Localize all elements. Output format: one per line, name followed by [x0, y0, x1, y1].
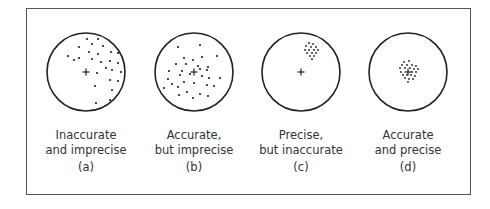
shot-dot: [312, 43, 314, 45]
shot-dot: [168, 70, 170, 72]
shot-dot: [306, 52, 308, 54]
shot-dot: [181, 70, 183, 72]
shot-dot: [111, 69, 113, 71]
shot-dot: [91, 58, 93, 60]
shot-dot: [94, 85, 96, 87]
shot-dot: [185, 63, 187, 65]
shot-dot: [201, 75, 203, 77]
caption-line2: but imprecise: [155, 143, 234, 157]
shot-dot: [310, 46, 312, 48]
shot-dot: [401, 64, 403, 66]
shot-dot: [97, 38, 99, 40]
shot-dot: [197, 65, 199, 67]
shot-dot: [216, 55, 218, 57]
crosshair-icon: [298, 69, 305, 76]
shot-dot: [406, 74, 408, 76]
shot-dot: [178, 94, 180, 96]
shot-dot: [311, 52, 313, 54]
shot-dot: [179, 74, 181, 76]
shot-dot: [315, 46, 317, 48]
shot-dot: [177, 86, 179, 88]
shot-dot: [96, 72, 98, 74]
caption-b: Accurate, but imprecise (b): [139, 128, 249, 175]
shot-dot: [311, 58, 313, 60]
caption-line2: and precise: [375, 143, 442, 157]
shot-dot: [183, 81, 185, 83]
shot-dot: [97, 53, 99, 55]
targets-canvas: [0, 0, 490, 209]
shot-dot: [315, 52, 317, 54]
shot-dot: [413, 68, 415, 70]
caption-line2: but inaccurate: [259, 143, 343, 157]
shot-dot: [199, 68, 201, 70]
crosshair-icon: [83, 69, 90, 76]
shot-dots: [304, 42, 319, 60]
shot-dots: [67, 38, 122, 104]
shot-dot: [171, 83, 173, 85]
caption-a: Inaccurate and imprecise (a): [31, 128, 141, 175]
shot-dot: [183, 57, 185, 59]
shot-dot: [308, 42, 310, 44]
shot-dot: [317, 49, 319, 51]
caption-line1: Accurate,: [167, 128, 222, 142]
shot-dot: [201, 56, 203, 58]
panel-tag: (b): [139, 160, 249, 175]
shot-dot: [78, 57, 80, 59]
shot-dot: [109, 99, 111, 101]
shot-dot: [313, 55, 315, 57]
shot-dot: [403, 61, 405, 63]
shot-dot: [400, 71, 402, 73]
caption-line2: and imprecise: [45, 143, 126, 157]
shot-dot: [313, 49, 315, 51]
panel-tag: (c): [246, 160, 356, 175]
target-c: [262, 33, 340, 111]
shot-dot: [73, 59, 75, 61]
shot-dot: [213, 85, 215, 87]
shot-dot: [411, 71, 413, 73]
shot-dot: [406, 64, 408, 66]
shot-dot: [192, 97, 194, 99]
shot-dot: [67, 55, 69, 57]
caption-line1: Precise,: [279, 128, 324, 142]
shot-dot: [199, 93, 201, 95]
shot-dot: [91, 43, 93, 45]
shot-dot: [407, 81, 409, 83]
shot-dot: [105, 67, 107, 69]
shot-dot: [206, 69, 208, 71]
shot-dot: [415, 65, 417, 67]
caption-line1: Accurate: [383, 128, 434, 142]
shot-dot: [309, 55, 311, 57]
crosshair-icon: [191, 69, 198, 76]
caption-d: Accurate and precise (d): [353, 128, 463, 175]
shot-dot: [404, 67, 406, 69]
shot-dot: [193, 82, 195, 84]
shot-dot: [109, 60, 111, 62]
shot-dot: [409, 67, 411, 69]
shot-dot: [417, 68, 419, 70]
shot-dot: [186, 91, 188, 93]
shot-dot: [408, 60, 410, 62]
shot-dot: [206, 84, 208, 86]
panel-tag: (d): [353, 160, 463, 175]
target-d: [369, 33, 447, 111]
shot-dot: [163, 87, 165, 89]
shot-dot: [410, 74, 412, 76]
shot-dot: [110, 51, 112, 53]
shot-dot: [102, 45, 104, 47]
panel-tag: (a): [31, 160, 141, 175]
shot-dot: [399, 67, 401, 69]
shot-dot: [412, 78, 414, 80]
shot-dot: [120, 71, 122, 73]
shot-dot: [199, 44, 201, 46]
shot-dot: [100, 61, 102, 63]
shot-dot: [88, 51, 90, 53]
shot-dot: [304, 49, 306, 51]
caption-c: Precise, but inaccurate (c): [246, 128, 356, 175]
shot-dot: [95, 102, 97, 104]
shot-dot: [78, 46, 80, 48]
shot-dot: [415, 71, 417, 73]
shot-dot: [117, 62, 119, 64]
target-b: [155, 33, 233, 111]
shot-dot: [177, 46, 179, 48]
shot-dot: [117, 80, 119, 82]
